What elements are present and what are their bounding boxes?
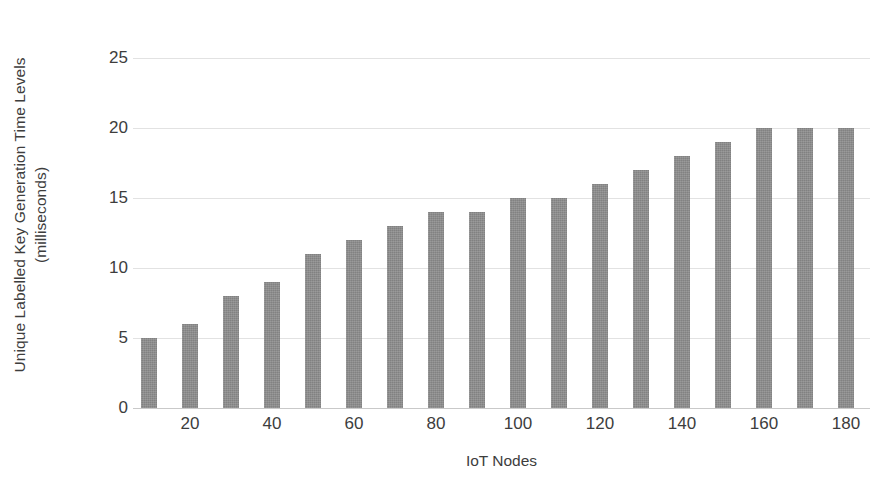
plot-area xyxy=(133,58,870,408)
bar xyxy=(469,212,485,408)
bar xyxy=(674,156,690,408)
bar xyxy=(141,338,157,408)
x-tick-label-120: 120 xyxy=(586,414,614,434)
bar xyxy=(551,198,567,408)
x-tick-label-140: 140 xyxy=(668,414,696,434)
y-axis-title-line-2: (milliseconds) xyxy=(31,57,52,372)
x-tick-label-180: 180 xyxy=(832,414,860,434)
y-tick-label-20: 20 xyxy=(82,118,128,138)
x-tick-label-60: 60 xyxy=(345,414,364,434)
bar xyxy=(346,240,362,408)
bar xyxy=(592,184,608,408)
y-tick-label-0: 0 xyxy=(82,398,128,418)
x-tick-label-40: 40 xyxy=(263,414,282,434)
x-tick-label-20: 20 xyxy=(181,414,200,434)
bar xyxy=(387,226,403,408)
x-axis-line xyxy=(133,408,870,409)
x-axis-title: IoT Nodes xyxy=(133,452,870,470)
y-tick-label-10: 10 xyxy=(82,258,128,278)
bar xyxy=(182,324,198,408)
x-tick-label-160: 160 xyxy=(750,414,778,434)
bar xyxy=(838,128,854,408)
y-axis-tick-labels: 0510152025 xyxy=(72,0,128,502)
x-axis-tick-labels: 20406080100120140160180 xyxy=(133,414,870,444)
bar xyxy=(223,296,239,408)
bar xyxy=(756,128,772,408)
y-axis-title-line-1: Unique Labelled Key Generation Time Leve… xyxy=(10,57,31,372)
y-tick-label-15: 15 xyxy=(82,188,128,208)
bar xyxy=(428,212,444,408)
bar xyxy=(264,282,280,408)
y-tick-label-25: 25 xyxy=(82,48,128,68)
y-axis-title: Unique Labelled Key Generation Time Leve… xyxy=(0,0,62,430)
bar xyxy=(510,198,526,408)
gridline-y-25 xyxy=(133,58,870,59)
bar xyxy=(797,128,813,408)
bar xyxy=(715,142,731,408)
x-tick-label-80: 80 xyxy=(427,414,446,434)
bar-chart-figure: Unique Labelled Key Generation Time Leve… xyxy=(0,0,872,502)
bar xyxy=(633,170,649,408)
y-tick-label-5: 5 xyxy=(82,328,128,348)
x-tick-label-100: 100 xyxy=(504,414,532,434)
bar xyxy=(305,254,321,408)
